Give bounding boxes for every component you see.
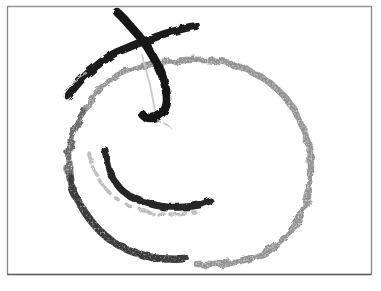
circle-outline-left xyxy=(69,112,84,179)
circle-outline-bottom-left xyxy=(70,177,185,259)
sketch-image xyxy=(0,0,381,291)
frame-border xyxy=(7,6,372,275)
circle-outline-gray xyxy=(84,60,311,264)
inner-curve xyxy=(105,150,210,207)
flecks-below-hook xyxy=(157,120,170,127)
sketch-canvas xyxy=(0,0,381,291)
sketch-strokes xyxy=(65,12,311,264)
